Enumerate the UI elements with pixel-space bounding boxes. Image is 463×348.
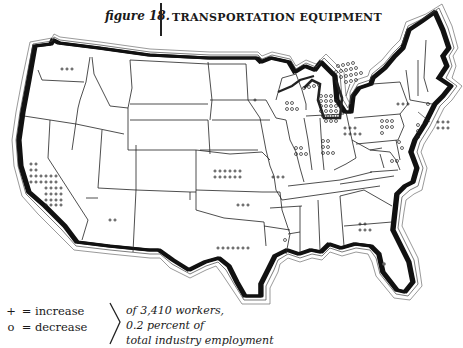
decrease-label: = decrease	[22, 320, 88, 334]
plus-icon: +	[4, 303, 18, 319]
legend-note-line-1: of 3,410 workers,	[126, 303, 274, 318]
legend-note-line-2: 0.2 percent of	[126, 318, 274, 333]
legend-decrease: o = decrease	[4, 319, 87, 335]
circle-icon: o	[4, 319, 18, 335]
legend-note: of 3,410 workers, 0.2 percent of total i…	[126, 303, 274, 348]
legend-keys: + = increase o = decrease	[4, 303, 87, 335]
brace-icon	[108, 300, 124, 348]
map-legend: + = increase o = decrease of 3,410 worke…	[0, 300, 300, 348]
increase-label: = increase	[22, 304, 85, 318]
legend-note-line-3: total industry employment	[126, 333, 274, 348]
legend-increase: + = increase	[4, 303, 87, 319]
state-boundaries	[24, 40, 432, 254]
us-map	[0, 0, 463, 348]
